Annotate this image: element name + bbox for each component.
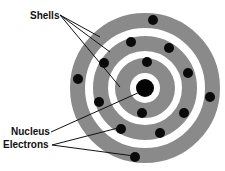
label-electrons: Electrons xyxy=(3,140,49,150)
leader-line-shells xyxy=(60,15,100,37)
label-shells: Shells xyxy=(30,11,59,21)
electron xyxy=(137,108,147,118)
electron xyxy=(94,97,104,107)
electron xyxy=(155,128,165,138)
electron xyxy=(183,68,193,78)
electron xyxy=(179,108,189,118)
electron xyxy=(205,92,215,102)
electron xyxy=(130,152,140,162)
electron xyxy=(164,43,174,53)
electron xyxy=(116,124,126,134)
electron xyxy=(142,57,152,67)
electron xyxy=(148,15,158,25)
nucleus xyxy=(136,79,154,97)
electron xyxy=(126,37,136,47)
label-nucleus: Nucleus xyxy=(11,127,50,137)
electron xyxy=(73,74,83,84)
